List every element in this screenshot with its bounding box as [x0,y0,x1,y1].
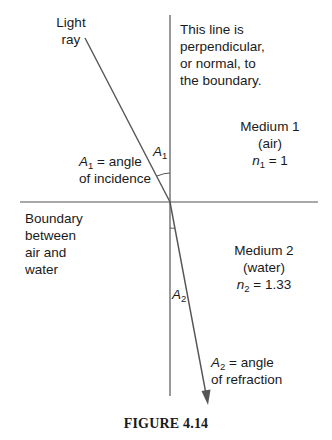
medium2-name: Medium 2 [224,242,304,259]
light-ray-label-line2: ray [56,31,86,48]
normal-desc-line2: perpendicular, [180,38,265,55]
angle-of-incidence-label: A1 = angle of incidence [79,153,151,187]
figure-caption: FIGURE 4.14 [0,416,332,432]
light-ray-label-line1: Light [56,14,86,31]
boundary-label-line1: Boundary [25,210,83,227]
boundary-label-line2: between [25,227,83,244]
medium2-material: (water) [224,259,304,276]
a2-arc-label: A2 [172,286,186,303]
boundary-label-line3: air and [25,244,83,261]
medium1-label: Medium 1 (air) n1 = 1 [230,118,310,169]
a2-desc-line2: of refraction [211,371,282,388]
medium1-index: n1 = 1 [230,152,310,169]
a1-arc-label: A1 [153,143,167,160]
normal-line-description: This line is perpendicular, or normal, t… [180,21,265,89]
normal-desc-line1: This line is [180,21,265,38]
light-ray-label: Light ray [56,14,86,48]
medium2-label: Medium 2 (water) n2 = 1.33 [224,242,304,293]
medium1-name: Medium 1 [230,118,310,135]
boundary-label: Boundary between air and water [25,210,83,278]
a1-desc-line2: of incidence [79,170,151,187]
arrowhead-icon [202,390,211,406]
boundary-label-line4: water [25,261,83,278]
medium2-index: n2 = 1.33 [224,276,304,293]
normal-desc-line4: the boundary. [180,72,265,89]
medium1-material: (air) [230,135,310,152]
angle-of-refraction-label: A2 = angle of refraction [211,354,282,388]
angle-arc-a1 [157,173,170,176]
normal-desc-line3: or normal, to [180,55,265,72]
